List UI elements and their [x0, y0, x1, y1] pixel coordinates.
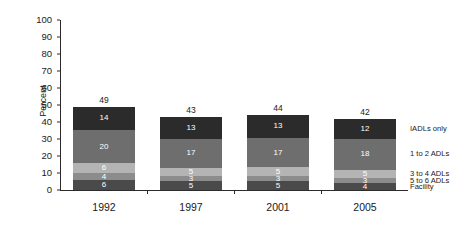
- bar-segment-iadls-only[interactable]: 13: [160, 117, 222, 139]
- bar-segment-value: 13: [187, 124, 196, 132]
- x-axis-tick-mark: [321, 190, 322, 194]
- y-axis-tick-label: 20: [24, 151, 52, 161]
- bar-segment-value: 17: [187, 149, 196, 157]
- y-axis-tick-label: 90: [24, 32, 52, 42]
- y-axis-tick-label: 70: [24, 66, 52, 76]
- y-axis-tick-label: 50: [24, 100, 52, 110]
- bar-total-label: 49: [73, 96, 135, 105]
- legend-item-iadls-only[interactable]: IADLs only: [410, 125, 447, 133]
- bar-segment-value: 14: [100, 114, 109, 122]
- bar-segment-value: 5: [189, 182, 193, 190]
- x-axis-label-2005: 2005: [330, 201, 400, 213]
- bar-segment-value: 6: [102, 181, 106, 189]
- y-axis-tick-label: 10: [24, 168, 52, 178]
- bar-segment-iadls-only[interactable]: 12: [334, 119, 396, 139]
- bar-2001[interactable]: 1317535: [247, 115, 309, 190]
- legend-item-facility[interactable]: Facility: [410, 183, 434, 191]
- bar-segment-value: 5: [276, 182, 280, 190]
- bar-segment-facility[interactable]: 4: [334, 183, 396, 190]
- legend-item-1-to-2-adls[interactable]: 1 to 2 ADLs: [410, 150, 449, 158]
- bar-1992[interactable]: 1420646: [73, 107, 135, 190]
- bar-1997[interactable]: 1317535: [160, 117, 222, 190]
- bar-total-label: 42: [334, 108, 396, 117]
- y-axis-tick-label: 30: [24, 134, 52, 144]
- x-axis-label-1992: 1992: [69, 201, 139, 213]
- stacked-bar-chart: Percent 0102030405060708090100 491420646…: [0, 0, 470, 241]
- y-axis-tick-label: 100: [24, 15, 52, 25]
- bar-segment-value: 18: [361, 150, 370, 158]
- x-axis-tick-mark: [234, 190, 235, 194]
- x-axis-label-1997: 1997: [156, 201, 226, 213]
- bar-segment-1-to-2-adls[interactable]: 20: [73, 130, 135, 163]
- bar-segment-1-to-2-adls[interactable]: 17: [160, 139, 222, 168]
- y-axis-tick-label: 40: [24, 117, 52, 127]
- bar-segment-1-to-2-adls[interactable]: 18: [334, 139, 396, 170]
- bar-segment-facility[interactable]: 5: [247, 181, 309, 190]
- bar-segment-1-to-2-adls[interactable]: 17: [247, 138, 309, 168]
- bar-segment-5-to-6-adls[interactable]: 4: [73, 173, 135, 180]
- bar-total-label: 44: [247, 104, 309, 113]
- y-axis-tick-label: 80: [24, 49, 52, 59]
- bar-segment-facility[interactable]: 5: [160, 181, 222, 190]
- bar-segment-facility[interactable]: 6: [73, 180, 135, 190]
- bar-segment-iadls-only[interactable]: 13: [247, 115, 309, 138]
- bar-total-label: 43: [160, 106, 222, 115]
- bar-segment-value: 17: [274, 149, 283, 157]
- y-axis-tick-label: 60: [24, 83, 52, 93]
- bar-segment-value: 4: [363, 183, 367, 191]
- bar-2005[interactable]: 1218534: [334, 119, 396, 190]
- bar-segment-value: 20: [100, 143, 109, 151]
- bar-segment-value: 12: [361, 125, 370, 133]
- bar-segment-iadls-only[interactable]: 14: [73, 107, 135, 130]
- bar-segment-value: 13: [274, 122, 283, 130]
- y-axis-tick-label: 0: [24, 185, 52, 195]
- y-axis-line: [60, 20, 61, 190]
- x-axis-tick-mark: [147, 190, 148, 194]
- x-axis-label-2001: 2001: [243, 201, 313, 213]
